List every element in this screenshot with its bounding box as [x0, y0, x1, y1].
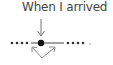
left-dots: [11, 42, 29, 45]
timeline-diagram: [0, 0, 113, 65]
current-point-marker: [38, 40, 44, 46]
right-dots: [67, 42, 91, 45]
down-arrow-icon: [38, 19, 45, 36]
bidirectional-arrows-icon: [32, 47, 55, 58]
